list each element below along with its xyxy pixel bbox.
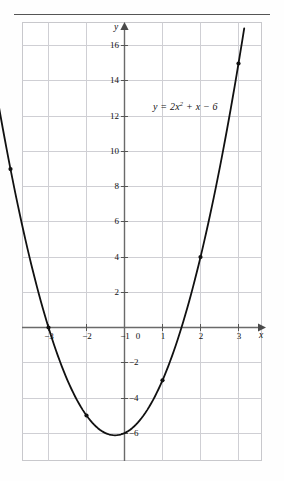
- point--1--5: [84, 413, 88, 417]
- y-tick-label-2: 2: [106, 287, 119, 297]
- y-axis-label: y: [114, 22, 118, 32]
- equation-annotation: y = 2x2 + x − 6: [153, 101, 218, 112]
- point-1--3: [160, 378, 164, 382]
- x-axis-label: x: [259, 330, 263, 340]
- x-tick-label-0: 0: [131, 331, 145, 341]
- y-tick-label-neg2: −2: [129, 357, 147, 367]
- x-tick-label-2: 2: [194, 331, 208, 341]
- point-3-15: [236, 61, 240, 65]
- figure-page: y = 2x2 + x − 6 x y −3 −2 −1 0 1 2 3 16 …: [0, 0, 284, 481]
- y-tick-label-4: 4: [106, 252, 119, 262]
- x-tick-label-3: 3: [232, 331, 246, 341]
- y-tick-label-neg6: −6: [129, 428, 147, 438]
- x-tick-label-1: 1: [156, 331, 170, 341]
- y-tick-label-14: 14: [103, 75, 119, 85]
- point--2-0: [46, 325, 50, 329]
- x-tick-label-neg2: −2: [76, 331, 98, 341]
- x-tick-label-neg3: −3: [38, 331, 60, 341]
- point-2-4: [198, 255, 202, 259]
- parabola-graph: [0, 0, 284, 481]
- y-tick-label-10: 10: [103, 146, 119, 156]
- y-tick-label-6: 6: [106, 216, 119, 226]
- y-tick-label-8: 8: [106, 181, 119, 191]
- y-tick-label-16: 16: [103, 40, 119, 50]
- point--3-9: [8, 167, 12, 171]
- y-tick-label-neg4: −4: [129, 393, 147, 403]
- y-tick-label-12: 12: [103, 111, 119, 121]
